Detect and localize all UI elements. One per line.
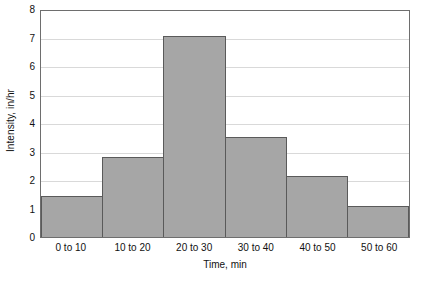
x-axis-tick-label: 50 to 60 [348, 241, 410, 257]
y-axis-tick-label: 7 [29, 34, 35, 44]
x-axis-tick-labels: 0 to 1010 to 2020 to 3030 to 4040 to 505… [40, 241, 410, 257]
histogram-chart: Intensity, in/hr 012345678 0 to 1010 to … [0, 0, 424, 281]
y-axis-tick-label: 0 [29, 233, 35, 243]
bar [41, 196, 103, 237]
x-axis-tick-label: 10 to 20 [102, 241, 164, 257]
x-axis-tick-label: 30 to 40 [225, 241, 287, 257]
bar [225, 137, 287, 237]
y-axis-tick-label: 2 [29, 176, 35, 186]
bar [286, 176, 348, 237]
y-axis-tick-label: 1 [29, 205, 35, 215]
y-axis-tick-label: 8 [29, 5, 35, 15]
bar [163, 36, 225, 237]
y-axis-tick-label: 3 [29, 148, 35, 158]
y-axis-tick-label: 4 [29, 119, 35, 129]
y-axis-title-text: Intensity, in/hr [6, 88, 17, 151]
y-axis-tick-label: 5 [29, 91, 35, 101]
y-axis-tick-labels: 012345678 [18, 0, 38, 240]
bar [347, 206, 409, 237]
x-axis-tick-label: 0 to 10 [40, 241, 102, 257]
x-axis-title-text: Time, min [203, 259, 247, 270]
x-axis-tick-label: 40 to 50 [287, 241, 349, 257]
x-axis-title: Time, min [40, 259, 410, 271]
y-axis-tick-label: 6 [29, 62, 35, 72]
x-axis-tick-label: 20 to 30 [163, 241, 225, 257]
bar [102, 157, 164, 237]
plot-area [40, 10, 410, 238]
bars-layer [41, 11, 409, 237]
